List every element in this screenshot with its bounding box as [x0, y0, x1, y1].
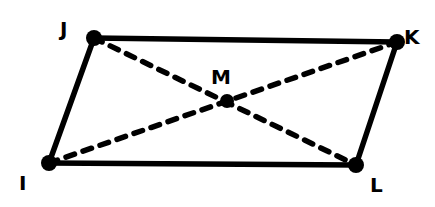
label-l: L — [370, 173, 383, 197]
vertex-m — [220, 94, 234, 108]
vertex-i — [41, 155, 57, 171]
label-m: M — [211, 65, 231, 89]
vertex-k — [389, 34, 405, 50]
label-i: I — [19, 171, 26, 195]
label-j: J — [58, 17, 67, 41]
parallelogram-diagram: J K I L M — [0, 0, 435, 207]
vertex-l — [348, 157, 364, 173]
side-li — [49, 163, 356, 165]
vertex-j — [86, 30, 102, 46]
label-k: K — [404, 25, 421, 49]
